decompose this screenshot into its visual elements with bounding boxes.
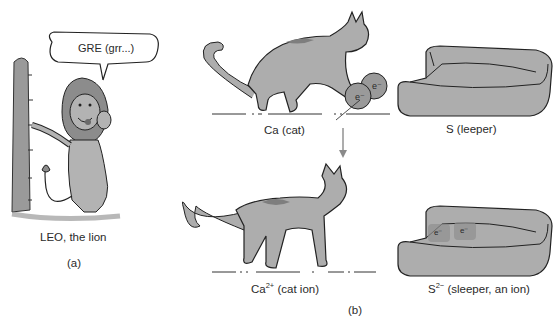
sleeper-ion-name: (sleeper, an ion) [444,283,530,295]
sleeper-ion-caption: S2− (sleeper, an ion) [428,283,530,295]
cat-ion-name: (cat ion) [274,283,319,295]
tree-trunk [12,58,33,212]
lion-illustration [32,78,111,212]
cat-with-electrons [203,12,387,120]
panel-b-label: (b) [348,304,362,316]
cat-ion-caption: Ca2+ (cat ion) [251,283,319,295]
bed-neutral [398,46,552,116]
sleeper-ion-symbol: S [428,283,436,295]
bed-ion [398,206,552,276]
ground-grass [12,214,120,219]
electron-label-1: e⁻ [372,81,382,91]
electron-label-4: e⁻ [460,226,468,235]
panel-a-label: (a) [67,257,81,269]
lion-caption: LEO, the lion [40,231,106,243]
sleeper-neutral-caption: S (leeper) [446,123,497,135]
reaction-arrow [339,128,347,158]
cat-neutral-caption: Ca (cat) [264,124,305,136]
electron-label-2: e⁻ [355,92,365,102]
sleeper-ion-charge: 2− [436,281,445,290]
cat-ion [182,164,346,268]
speech-bubble-text: GRE (grr...) [78,42,134,54]
cat-ion-charge: 2+ [266,281,275,290]
speech-bubble [49,32,158,80]
electron-label-3: e⁻ [434,228,442,237]
cat-ion-symbol: Ca [251,283,266,295]
